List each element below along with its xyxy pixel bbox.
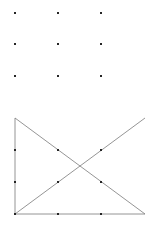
grid-dot (57, 43, 60, 46)
grid-dot (57, 12, 60, 15)
grid-dot (100, 43, 103, 46)
figure-dot (100, 181, 103, 184)
top-dot-grid (14, 12, 103, 78)
grid-dot (100, 12, 103, 15)
figure-dot (14, 181, 17, 184)
figure-dot (14, 213, 17, 216)
figure-dot (57, 213, 60, 216)
grid-dot (57, 75, 60, 78)
grid-dot (100, 75, 103, 78)
figure-dot (57, 149, 60, 152)
lattice-diagram-svg (0, 0, 154, 226)
grid-dot (14, 43, 17, 46)
grid-dot (14, 75, 17, 78)
figure-dot (14, 149, 17, 152)
figure-dot (100, 213, 103, 216)
triangle-edges (15, 118, 145, 214)
figure-dot (100, 149, 103, 152)
diagram-canvas (0, 0, 154, 226)
figure-dot (57, 181, 60, 184)
grid-dot (14, 12, 17, 15)
